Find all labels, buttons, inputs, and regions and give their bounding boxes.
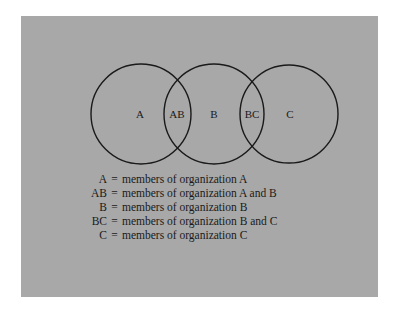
- legend-description: members of organization B and C: [122, 214, 277, 228]
- legend-equals: =: [107, 186, 122, 200]
- legend-key: AB: [70, 186, 107, 200]
- legend-row-bc: BC = members of organization B and C: [70, 214, 277, 228]
- legend-key: A: [70, 172, 107, 186]
- region-label-bc: BC: [245, 108, 260, 120]
- legend-equals: =: [107, 200, 122, 214]
- legend-row-ab: AB = members of organization A and B: [70, 186, 277, 200]
- legend-row-c: C = members of organization C: [70, 228, 277, 242]
- region-label-c: C: [286, 108, 293, 120]
- legend-description: members of organization C: [122, 228, 247, 242]
- legend-key: BC: [70, 214, 107, 228]
- legend-description: members of organization A: [122, 172, 247, 186]
- legend-row-a: A = members of organization A: [70, 172, 277, 186]
- region-label-ab: AB: [169, 108, 184, 120]
- legend-equals: =: [107, 228, 122, 242]
- legend-row-b: B = members of organization B: [70, 200, 277, 214]
- region-label-b: B: [210, 108, 217, 120]
- region-label-a: A: [136, 108, 144, 120]
- legend-key: C: [70, 228, 107, 242]
- legend: A = members of organization A AB = membe…: [70, 172, 277, 242]
- venn-diagram: A AB B BC C: [0, 0, 397, 315]
- legend-equals: =: [107, 214, 122, 228]
- legend-equals: =: [107, 172, 122, 186]
- legend-key: B: [70, 200, 107, 214]
- legend-description: members of organization B: [122, 200, 247, 214]
- legend-description: members of organization A and B: [122, 186, 277, 200]
